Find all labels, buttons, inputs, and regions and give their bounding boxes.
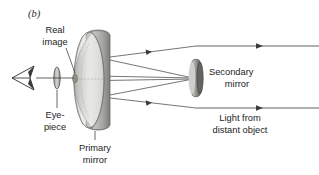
- ray-lower-arrowhead: [146, 100, 152, 106]
- eyepiece-label-line1: Eye-: [45, 110, 64, 120]
- secondary-mirror-label-line2: mirror: [225, 79, 249, 89]
- ray-upper-to-primary: [110, 46, 196, 57]
- observer-eye: [12, 66, 34, 90]
- primary-mirror-label-line1: Primary: [79, 143, 111, 153]
- panel-label: (b): [28, 8, 41, 20]
- primary-mirror-label-line2: mirror: [83, 155, 107, 165]
- real-image-label-line1: Real: [45, 25, 64, 35]
- primary-mirror-central-hole: [73, 74, 78, 82]
- figure-container: (b): [0, 0, 319, 175]
- incoming-light-label-line1: Light from: [219, 113, 261, 123]
- real-image-label-line2: image: [42, 37, 67, 47]
- real-image-leader: [66, 48, 75, 73]
- incoming-light-rays: [196, 43, 319, 111]
- incoming-ray-lower-arrowhead: [256, 105, 263, 111]
- ray-upper-arrowhead: [146, 49, 152, 55]
- ray-lower-reflected: [110, 79, 193, 95]
- ray-upper-reflected: [110, 60, 193, 78]
- eyepiece-lens: [36, 67, 74, 89]
- secondary-mirror: [189, 59, 204, 96]
- ray-lower-to-primary: [110, 98, 196, 108]
- eyepiece-label-line2: piece: [44, 122, 66, 132]
- telescope-ray-diagram: (b): [0, 0, 319, 175]
- secondary-mirror-face: [189, 62, 196, 94]
- secondary-mirror-back: [197, 62, 203, 94]
- primary-mirror: [73, 30, 110, 130]
- secondary-mirror-label-line1: Secondary: [209, 67, 254, 77]
- primary-mirror-aperture-edge: [74, 32, 104, 128]
- incoming-light-label-line2: distant object: [213, 125, 268, 135]
- incoming-ray-upper-arrowhead: [256, 43, 263, 49]
